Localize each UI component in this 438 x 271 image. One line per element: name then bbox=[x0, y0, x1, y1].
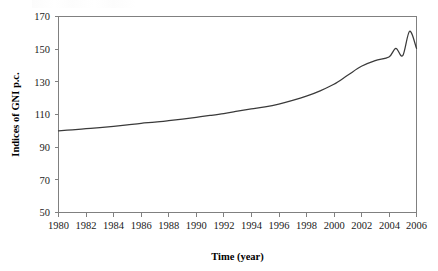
y-axis-ticks bbox=[55, 17, 59, 213]
data-line-gni-index bbox=[59, 31, 417, 131]
x-axis-tick-labels: 1980 1982 1984 1986 1988 1990 1992 1994 … bbox=[48, 220, 427, 231]
y-axis-tick-labels: 170 150 130 110 90 70 50 bbox=[34, 11, 50, 218]
x-tick-label: 2004 bbox=[379, 220, 401, 231]
chart-figure: 170 150 130 110 90 70 50 198 bbox=[0, 0, 438, 271]
y-tick-label: 130 bbox=[34, 77, 50, 88]
x-tick-label: 1986 bbox=[131, 220, 152, 231]
x-tick-label: 1994 bbox=[241, 220, 263, 231]
plot-frame bbox=[59, 17, 417, 213]
x-tick-label: 1992 bbox=[213, 220, 234, 231]
x-tick-label: 1980 bbox=[48, 220, 69, 231]
y-axis-title: Indices of GNI p.c. bbox=[10, 72, 21, 157]
x-axis-title: Time (year) bbox=[211, 251, 264, 263]
x-tick-label: 2000 bbox=[324, 220, 345, 231]
y-tick-label: 70 bbox=[40, 175, 51, 186]
x-tick-label: 1984 bbox=[103, 220, 125, 231]
x-tick-label: 2006 bbox=[406, 220, 427, 231]
line-chart: 170 150 130 110 90 70 50 198 bbox=[0, 0, 438, 271]
x-tick-label: 1998 bbox=[296, 220, 317, 231]
y-tick-label: 110 bbox=[35, 109, 50, 120]
y-tick-label: 150 bbox=[34, 44, 50, 55]
y-tick-label: 170 bbox=[34, 11, 50, 22]
data-series-group bbox=[59, 31, 417, 131]
x-tick-label: 1982 bbox=[76, 220, 97, 231]
x-axis-ticks bbox=[59, 213, 417, 217]
y-tick-label: 50 bbox=[40, 207, 51, 218]
x-tick-label: 2002 bbox=[351, 220, 372, 231]
x-tick-label: 1988 bbox=[158, 220, 179, 231]
y-tick-label: 90 bbox=[40, 142, 51, 153]
plot-border bbox=[59, 17, 417, 213]
x-tick-label: 1990 bbox=[186, 220, 207, 231]
x-tick-label: 1996 bbox=[269, 220, 290, 231]
